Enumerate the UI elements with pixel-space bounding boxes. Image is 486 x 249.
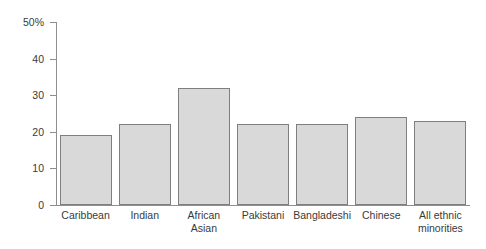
y-axis-tick-label: 20 [0, 127, 44, 137]
category-label-line: Caribbean [56, 209, 115, 222]
category-label: Pakistani [233, 209, 292, 222]
bar-chart: CaribbeanIndianAfricanAsianPakistaniBang… [0, 0, 486, 249]
y-axis-tick [50, 168, 56, 169]
category-label: All ethnicminorities [411, 209, 470, 234]
x-axis-category-labels: CaribbeanIndianAfricanAsianPakistaniBang… [56, 209, 470, 247]
category-label-line: Asian [174, 222, 233, 235]
bar [119, 124, 171, 205]
category-label: Caribbean [56, 209, 115, 222]
y-axis-tick [50, 95, 56, 96]
category-label-line: African [174, 209, 233, 222]
x-axis-line [56, 205, 470, 206]
y-axis-tick-label: 50% [0, 17, 44, 27]
y-axis-tick-label: 0 [0, 200, 44, 210]
category-label-line: Pakistani [233, 209, 292, 222]
y-axis-tick [50, 132, 56, 133]
category-label: Chinese [352, 209, 411, 222]
bar [178, 88, 230, 205]
category-label-line: minorities [411, 222, 470, 235]
category-label-line: Indian [115, 209, 174, 222]
y-axis-tick [50, 22, 56, 23]
bar [355, 117, 407, 205]
category-label-line: Chinese [352, 209, 411, 222]
y-axis-tick [50, 59, 56, 60]
category-label: AfricanAsian [174, 209, 233, 234]
category-label: Indian [115, 209, 174, 222]
bar [60, 135, 112, 205]
bar [237, 124, 289, 205]
bar [414, 121, 466, 205]
y-axis-tick-label: 30 [0, 90, 44, 100]
y-axis-tick-label: 10 [0, 163, 44, 173]
y-axis-tick-label: 40 [0, 54, 44, 64]
plot-area [56, 22, 470, 205]
category-label-line: All ethnic [411, 209, 470, 222]
bar [296, 124, 348, 205]
category-label: Bangladeshi [293, 209, 352, 222]
y-axis-tick [50, 205, 56, 206]
category-label-line: Bangladeshi [293, 209, 352, 222]
